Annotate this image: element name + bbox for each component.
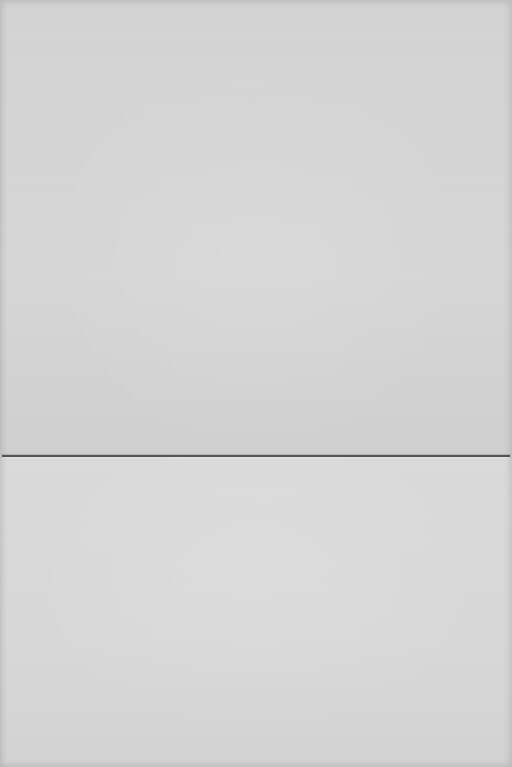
fold-crease-line xyxy=(2,455,510,457)
paper-top-panel xyxy=(0,0,512,456)
photo-blank-paper xyxy=(0,0,512,767)
paper-bottom-panel xyxy=(0,458,512,767)
